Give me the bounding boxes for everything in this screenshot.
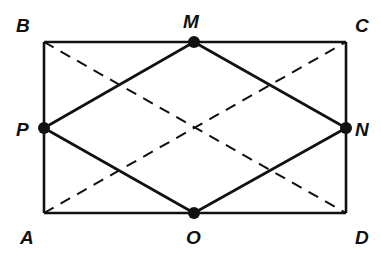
geometry-diagram: BMCPNAOD — [0, 0, 381, 257]
label-p: P — [16, 120, 29, 139]
label-c: C — [355, 16, 369, 35]
point-o — [188, 207, 200, 219]
label-m: M — [183, 12, 199, 31]
label-b: B — [16, 16, 30, 35]
point-m — [188, 36, 200, 48]
label-d: D — [355, 228, 369, 247]
label-a: A — [20, 228, 34, 247]
diagram-canvas — [0, 0, 381, 257]
label-o: O — [186, 228, 201, 247]
point-p — [38, 122, 50, 134]
label-n: N — [355, 120, 369, 139]
point-n — [340, 122, 352, 134]
